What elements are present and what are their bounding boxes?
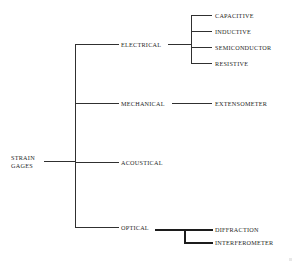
node-label-optical: OPTICAL: [121, 224, 149, 231]
node-label-electrical: ELECTRICAL: [121, 41, 161, 48]
root-node-label-line2: GAGES: [11, 162, 33, 170]
leaf-line-semiconductor: [191, 47, 212, 48]
strain-gage-tree-diagram: STRAIN GAGES ELECTRICAL CAPACITIVE INDUC…: [0, 0, 294, 263]
leaf-line-resistive: [191, 63, 212, 64]
subtrunk-line-optical: [184, 229, 186, 243]
node-label-mechanical: MECHANICAL: [121, 100, 165, 107]
node-label-inductive: INDUCTIVE: [215, 28, 251, 35]
connector-mechanical-to-extensometer: [172, 103, 212, 104]
node-label-interferometer: INTERFEROMETER: [215, 239, 274, 246]
root-node-label-line1: STRAIN: [11, 154, 35, 162]
subtrunk-line-electrical: [191, 15, 192, 63]
connector-electrical-to-subtrunk: [168, 44, 192, 45]
node-label-acoustical: ACOUSTICAL: [121, 159, 163, 166]
node-label-capacitive: CAPACITIVE: [215, 12, 254, 19]
node-label-semiconductor: SEMICONDUCTOR: [215, 44, 271, 51]
branch-line-optical: [75, 227, 119, 228]
main-trunk-line: [75, 44, 76, 228]
branch-line-electrical: [75, 44, 119, 45]
leaf-line-capacitive: [191, 15, 212, 16]
root-stem-line: [44, 161, 75, 162]
node-label-diffraction: DIFFRACTION: [215, 226, 259, 233]
branch-line-acoustical: [75, 162, 119, 163]
branch-line-mechanical: [75, 103, 119, 104]
node-label-resistive: RESISTIVE: [215, 60, 248, 67]
page-edge-artifact: [289, 258, 292, 261]
leaf-line-interferometer: [184, 242, 213, 244]
node-label-extensometer: EXTENSOMETER: [215, 100, 267, 107]
leaf-line-inductive: [191, 31, 212, 32]
